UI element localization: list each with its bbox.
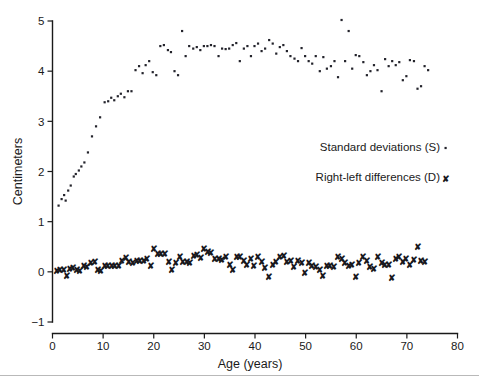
data-point-s (388, 65, 390, 67)
data-point-s (340, 19, 342, 21)
figure-container: 543210−101020304050607080 ✘✘✘✘✘✘✘✘✘✘✘✘✘✘… (0, 0, 479, 384)
data-point-s (217, 55, 219, 57)
data-point-s (300, 47, 302, 49)
data-point-s (304, 55, 306, 57)
data-point-s (423, 65, 425, 67)
data-point-s (155, 74, 157, 76)
data-point-s (297, 60, 299, 62)
data-point-s (113, 99, 115, 101)
x-axis-title: Age (years) (218, 357, 283, 371)
data-point-s (293, 58, 295, 60)
data-point-s (199, 49, 201, 51)
data-point-s (395, 64, 397, 66)
data-point-s (391, 60, 393, 62)
data-point-s (260, 50, 262, 52)
x-tick-label: 80 (451, 340, 464, 352)
data-point-s (123, 96, 125, 98)
data-point-d: ✘ (414, 242, 422, 252)
data-point-s (99, 116, 101, 118)
data-point-s (73, 175, 75, 177)
data-point-s (351, 68, 353, 70)
x-tick-label: 60 (350, 340, 363, 352)
data-point-s (243, 47, 245, 49)
data-point-s (228, 47, 230, 49)
data-point-s (117, 95, 119, 97)
data-point-s (188, 45, 190, 47)
data-point-s (75, 173, 77, 175)
data-point-s (170, 51, 172, 53)
data-point-s (152, 71, 154, 73)
data-point-s (358, 55, 360, 57)
data-point-s (177, 74, 179, 76)
data-point-s (253, 45, 255, 47)
y-axis-title: Centimeters (11, 138, 25, 205)
data-point-s (380, 90, 382, 92)
data-point-s (268, 39, 270, 41)
data-point-s (91, 135, 93, 137)
data-point-s (369, 70, 371, 72)
data-point-s (134, 69, 136, 71)
data-point-s (246, 45, 248, 47)
data-point-s (427, 69, 429, 71)
data-point-s (337, 76, 339, 78)
data-point-d: ✘ (388, 273, 396, 283)
data-point-s (344, 60, 346, 62)
data-point-s (257, 42, 259, 44)
data-point-s (78, 169, 80, 171)
y-tick-label: 2 (38, 166, 44, 178)
data-point-d: ✘ (265, 272, 273, 282)
data-point-s (420, 85, 422, 87)
data-point-s (398, 61, 400, 63)
data-point-s (225, 48, 227, 50)
data-point-s (167, 49, 169, 51)
data-point-s (221, 47, 223, 49)
data-point-s (138, 65, 140, 67)
data-point-s (148, 60, 150, 62)
data-point-d: ✘ (421, 257, 429, 267)
y-tick-label: 3 (38, 116, 44, 128)
data-point-s (409, 59, 411, 61)
x-tick-label: 20 (147, 340, 160, 352)
data-point-s (326, 68, 328, 70)
data-point-s (373, 64, 375, 66)
data-point-s (110, 97, 112, 99)
data-point-s (413, 60, 415, 62)
data-point-s (192, 47, 194, 49)
data-point-s (173, 70, 175, 72)
data-point-s (308, 60, 310, 62)
data-point-s (322, 56, 324, 58)
legend-marker-dot-icon (445, 147, 447, 149)
data-point-s (311, 63, 313, 65)
data-point-s (196, 46, 198, 48)
data-point-s (348, 30, 350, 32)
data-point-s (130, 90, 132, 92)
data-point-s (235, 42, 237, 44)
scatter-plot: 543210−101020304050607080 ✘✘✘✘✘✘✘✘✘✘✘✘✘✘… (0, 0, 479, 384)
data-point-d: ✘ (352, 272, 360, 282)
data-point-s (376, 69, 378, 71)
data-point-s (206, 45, 208, 47)
data-point-s (319, 70, 321, 72)
legend-label-d: Right-left differences (D) (316, 171, 441, 183)
data-point-s (213, 45, 215, 47)
data-point-s (210, 44, 212, 46)
data-point-d: ✘ (319, 271, 327, 281)
data-point-s (61, 198, 63, 200)
data-point-d: ✘ (229, 265, 237, 275)
data-point-s (315, 55, 317, 57)
x-tick-label: 40 (249, 340, 262, 352)
data-point-s (104, 101, 106, 103)
data-point-s (402, 79, 404, 81)
data-point-s (80, 165, 82, 167)
data-point-s (203, 45, 205, 47)
data-point-s (330, 65, 332, 67)
data-point-s (107, 100, 109, 102)
x-tick-label: 30 (198, 340, 211, 352)
data-point-s (362, 61, 364, 63)
y-tick-label: 1 (38, 216, 44, 228)
data-point-s (142, 72, 144, 74)
data-point-s (279, 46, 281, 48)
axes-group: 543210−101020304050607080 (31, 15, 464, 352)
data-point-s (232, 44, 234, 46)
x-tick-label: 70 (400, 340, 413, 352)
